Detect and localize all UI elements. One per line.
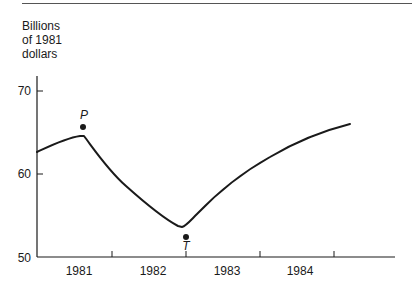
data-line — [37, 124, 350, 227]
y-tick-label-60: 60 — [18, 167, 32, 181]
x-tick-label-1984: 1984 — [287, 264, 314, 278]
peak-marker — [80, 124, 86, 130]
trough-label: T — [182, 239, 191, 253]
x-tick-label-1983: 1983 — [214, 264, 241, 278]
peak-label: P — [80, 108, 88, 122]
y-tick-label-50: 50 — [18, 251, 32, 265]
y-tick-label-70: 70 — [18, 84, 32, 98]
x-tick-label-1981: 1981 — [66, 264, 93, 278]
x-tick-label-1982: 1982 — [140, 264, 167, 278]
line-chart: 70 60 50 1981 1982 1983 1984 P T — [0, 0, 412, 290]
